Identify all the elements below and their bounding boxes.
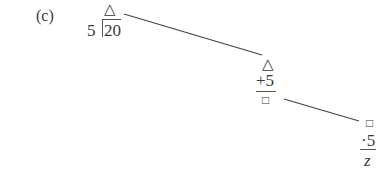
connector-lines	[0, 0, 388, 175]
